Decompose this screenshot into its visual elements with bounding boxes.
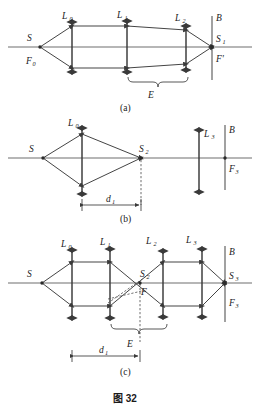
label-L2-c: L bbox=[145, 236, 151, 246]
brace-E-c bbox=[111, 324, 167, 334]
panel-tag-b: (b) bbox=[120, 214, 131, 225]
ray-a-8 bbox=[186, 47, 212, 64]
ray-a-3 bbox=[127, 26, 186, 30]
label-L0-sub-c: 0 bbox=[69, 243, 73, 250]
label-L0-c: L bbox=[60, 239, 66, 249]
image2-point-b bbox=[139, 156, 142, 159]
ray-c-9 bbox=[202, 262, 225, 283]
ray-a-5 bbox=[40, 47, 72, 68]
label-L1-sub-c: 1 bbox=[108, 241, 111, 248]
label-S3-c: S bbox=[229, 271, 234, 281]
label-E-a: E bbox=[147, 90, 154, 100]
label-F0-sub-a: 0 bbox=[33, 60, 37, 67]
ray-c-10 bbox=[202, 283, 225, 306]
ray-b-3 bbox=[43, 158, 82, 186]
label-L0-a: L bbox=[61, 11, 67, 21]
panel-c: L 0 L 1 L 2 L 3 B S S 2 F S 3 F 3 E d 1 … bbox=[8, 235, 252, 378]
brace-E-a bbox=[128, 77, 188, 87]
label-L3-sub-c: 3 bbox=[193, 239, 197, 246]
label-F3-b: F bbox=[228, 164, 235, 174]
label-d1-sub-b: 1 bbox=[112, 198, 115, 205]
label-d1-b: d bbox=[106, 194, 111, 204]
label-L1-sub-a: 1 bbox=[125, 14, 128, 21]
label-L1-c: L bbox=[99, 237, 105, 247]
label-L2-a: L bbox=[174, 13, 180, 23]
figure-caption: 图 32 bbox=[113, 393, 137, 404]
label-E-c: E bbox=[126, 339, 133, 349]
source-point-b bbox=[41, 156, 44, 159]
ray-a-7 bbox=[127, 64, 186, 68]
focus3-point-b bbox=[223, 156, 226, 159]
label-F3-sub-c: 3 bbox=[235, 302, 239, 309]
label-L0-sub-a: 0 bbox=[70, 15, 74, 22]
ray-b-4 bbox=[82, 158, 141, 186]
source-point-a bbox=[38, 45, 41, 48]
ray-c-1 bbox=[42, 262, 72, 283]
panel-tag-a: (a) bbox=[120, 103, 131, 114]
label-S-a: S bbox=[27, 33, 32, 43]
image-point-a bbox=[210, 45, 214, 49]
image2-point-c bbox=[138, 281, 141, 284]
label-L0-sub-b: 0 bbox=[76, 122, 80, 129]
label-B-b: B bbox=[229, 125, 235, 135]
label-d1-sub-c: 1 bbox=[105, 349, 108, 356]
panel-a: L 0 L 1 L 2 B S 1 F' S F 0 E (a) bbox=[8, 10, 252, 114]
label-L3-c: L bbox=[185, 235, 191, 245]
ray-b-1 bbox=[43, 134, 82, 158]
label-S1-sub-a: 1 bbox=[223, 38, 226, 45]
label-L3-sub-b: 3 bbox=[211, 133, 215, 140]
label-S-c: S bbox=[27, 269, 32, 279]
label-F0-a: F bbox=[25, 56, 32, 66]
label-L3-b: L bbox=[203, 129, 209, 139]
label-L0-b: L bbox=[67, 118, 73, 128]
label-B-a: B bbox=[216, 13, 222, 23]
ray-c-3 bbox=[42, 283, 72, 306]
label-L2-sub-a: 2 bbox=[183, 17, 186, 24]
image3-point-c bbox=[223, 281, 227, 285]
label-S3-sub-c: 3 bbox=[235, 275, 239, 282]
figure-32-container: L 0 L 1 L 2 B S 1 F' S F 0 E (a) bbox=[0, 0, 258, 412]
panel-tag-c: (c) bbox=[120, 367, 131, 378]
ray-a-4 bbox=[186, 30, 212, 47]
label-L2-sub-c: 2 bbox=[154, 240, 157, 247]
label-S2-sub-c: 2 bbox=[147, 273, 150, 280]
panel-b: L 0 S S 2 L 3 B F 3 d 1 (b) bbox=[8, 118, 252, 225]
label-F-c: F bbox=[140, 287, 147, 297]
label-S2-b: S bbox=[139, 144, 144, 154]
label-B-c: B bbox=[229, 247, 235, 257]
label-F3-c: F bbox=[228, 298, 235, 308]
label-S2-sub-b: 2 bbox=[146, 148, 149, 155]
label-S2-c: S bbox=[140, 269, 145, 279]
ray-b-2 bbox=[82, 134, 141, 158]
optical-ray-diagram: L 0 L 1 L 2 B S 1 F' S F 0 E (a) bbox=[0, 0, 258, 412]
label-S-b: S bbox=[29, 144, 34, 154]
label-F3-sub-b: 3 bbox=[235, 168, 239, 175]
ray-a-1 bbox=[40, 26, 72, 47]
label-Fprime-a: F' bbox=[215, 54, 225, 64]
source-point-c bbox=[40, 281, 43, 284]
label-d1-c: d bbox=[99, 345, 104, 355]
label-S1-a: S bbox=[216, 34, 221, 44]
label-L1-a: L bbox=[116, 10, 122, 20]
